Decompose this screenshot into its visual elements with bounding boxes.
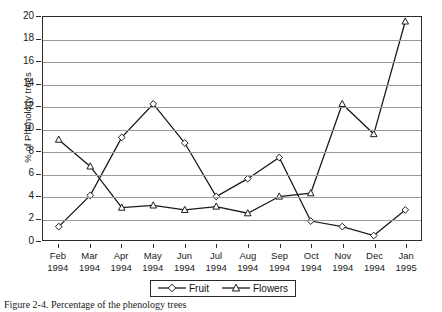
x-tick-mark xyxy=(343,244,344,248)
x-axis-tick-labels: Feb1994Mar1994Apr1994May1994Jun1994Jul19… xyxy=(42,244,422,278)
series-line-flowers xyxy=(59,21,406,213)
diamond-marker xyxy=(158,282,186,294)
gridline xyxy=(43,175,421,176)
figure-container: % of Phenology trees 02468101214161820 F… xyxy=(0,0,442,312)
y-tick-mark xyxy=(36,151,41,152)
x-tick-mark xyxy=(58,244,59,248)
x-tick-mark xyxy=(216,244,217,248)
legend-entry-flowers: Flowers xyxy=(222,282,288,294)
x-tick-year: 1995 xyxy=(384,262,428,274)
y-tick-mark xyxy=(36,241,41,242)
y-tick-mark xyxy=(36,196,41,197)
y-tick-mark xyxy=(36,174,41,175)
y-tick-label: 6 xyxy=(12,168,34,178)
figure-caption: Figure 2-4. Percentage of the phenology … xyxy=(4,299,186,310)
legend-label: Fruit xyxy=(189,283,209,294)
y-tick-label: 16 xyxy=(12,56,34,66)
y-tick-label: 18 xyxy=(12,33,34,43)
y-tick-mark xyxy=(36,84,41,85)
x-tick-label: Jan1995 xyxy=(384,250,428,273)
gridline xyxy=(43,40,421,41)
gridline xyxy=(43,85,421,86)
legend-entry-fruit: Fruit xyxy=(158,282,209,294)
x-tick-mark xyxy=(280,244,281,248)
series-line-fruit xyxy=(59,104,406,236)
y-tick-mark xyxy=(36,61,41,62)
y-tick-mark xyxy=(36,39,41,40)
x-tick-mark xyxy=(311,244,312,248)
data-point-fruit xyxy=(339,223,346,230)
y-tick-label: 20 xyxy=(12,11,34,21)
gridline xyxy=(43,62,421,63)
gridline xyxy=(43,130,421,131)
data-point-flowers xyxy=(339,100,346,106)
y-tick-label: 10 xyxy=(12,123,34,133)
data-point-flowers xyxy=(402,18,409,24)
x-tick-mark xyxy=(90,244,91,248)
x-tick-mark xyxy=(248,244,249,248)
data-point-flowers xyxy=(213,203,220,209)
y-tick-label: 14 xyxy=(12,78,34,88)
gridline xyxy=(43,152,421,153)
y-tick-mark xyxy=(36,106,41,107)
y-tick-mark xyxy=(36,16,41,17)
y-tick-label: 12 xyxy=(12,101,34,111)
y-tick-label: 4 xyxy=(12,191,34,201)
x-tick-mark xyxy=(153,244,154,248)
y-tick-label: 8 xyxy=(12,146,34,156)
y-tick-mark xyxy=(36,129,41,130)
y-axis-tick-labels: 02468101214161820 xyxy=(10,0,34,312)
gridline xyxy=(43,220,421,221)
chart-series-svg xyxy=(43,17,421,240)
data-point-flowers xyxy=(55,136,62,142)
x-tick-mark xyxy=(406,244,407,248)
y-tick-mark xyxy=(36,219,41,220)
x-tick-mark xyxy=(121,244,122,248)
data-point-flowers xyxy=(307,190,314,196)
chart-legend: FruitFlowers xyxy=(150,280,296,297)
gridline xyxy=(43,107,421,108)
x-tick-mark xyxy=(375,244,376,248)
x-tick-mark xyxy=(185,244,186,248)
x-tick-month: Jan xyxy=(384,250,428,262)
triangle-marker xyxy=(222,282,250,294)
y-tick-label: 2 xyxy=(12,213,34,223)
plot-area xyxy=(42,16,422,241)
legend-label: Flowers xyxy=(253,283,288,294)
data-point-flowers xyxy=(150,202,157,208)
gridline xyxy=(43,197,421,198)
y-tick-label: 0 xyxy=(12,236,34,246)
